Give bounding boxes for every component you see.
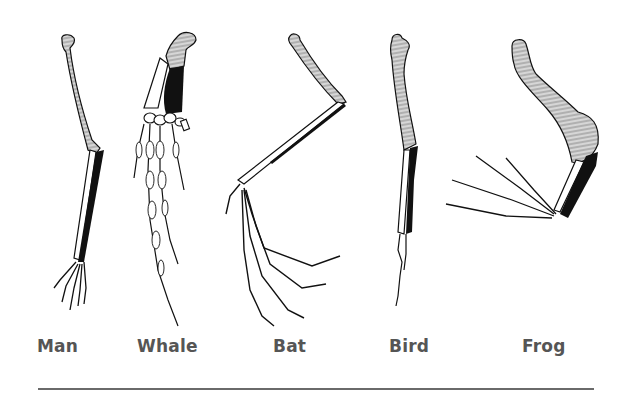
homologous-limbs-figure (0, 0, 631, 393)
label-bat: Bat (273, 336, 306, 356)
bat-wing (226, 34, 346, 326)
bird-wing (391, 34, 419, 306)
limb-drawings (0, 0, 631, 393)
label-frog: Frog (522, 336, 566, 356)
label-bird: Bird (389, 336, 429, 356)
label-whale: Whale (137, 336, 198, 356)
whale-flipper (134, 33, 196, 326)
man-arm (54, 35, 104, 310)
label-man: Man (37, 336, 78, 356)
frog-leg (446, 40, 598, 218)
bottom-rule (38, 388, 594, 390)
